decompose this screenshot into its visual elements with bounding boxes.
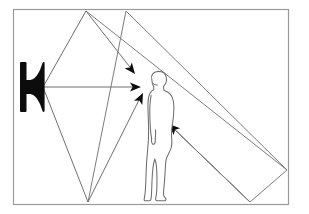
reflection-diagram — [0, 0, 309, 214]
ray-ceiling-reflection — [43, 11, 133, 87]
ray-diagonal-return — [88, 11, 126, 202]
ray-rear-reflection-return — [173, 128, 250, 202]
diagram-canvas — [0, 0, 309, 214]
arrowhead-floor-reflection — [134, 91, 147, 105]
ray-floor-reflection — [43, 87, 141, 202]
loudspeaker-icon — [20, 62, 45, 112]
listener-figure — [144, 71, 174, 200]
ray-rear-reflection — [86, 11, 287, 202]
arrowhead-ceiling-reflection — [125, 62, 139, 76]
